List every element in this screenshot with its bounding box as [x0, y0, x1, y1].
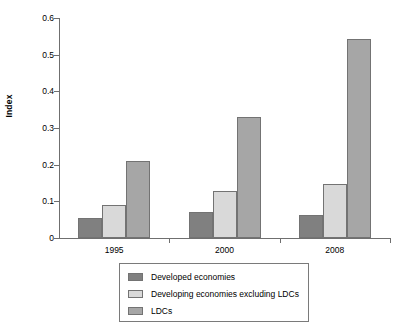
- legend-swatch-icon: [128, 307, 143, 315]
- y-axis-tick: [54, 201, 59, 202]
- bar: [237, 117, 261, 238]
- y-axis-title: Index: [4, 74, 24, 138]
- bar-chart: Index 00.10.20.30.40.50.6 199520002008 D…: [0, 0, 402, 331]
- y-axis-line: [59, 18, 60, 239]
- y-axis-tick-label: 0.1: [26, 197, 54, 205]
- y-axis-tick-label: 0.4: [26, 87, 54, 95]
- y-axis-tick-label: 0.6: [26, 14, 54, 22]
- chart-legend: Developed economiesDeveloping economies …: [119, 263, 309, 322]
- legend-swatch-icon: [128, 290, 143, 298]
- y-axis-tick: [54, 238, 59, 239]
- x-axis-category-label: 2000: [195, 245, 255, 255]
- y-axis-tick: [54, 55, 59, 56]
- bar: [78, 218, 102, 238]
- plot-area: [59, 18, 390, 238]
- y-axis-tick: [54, 91, 59, 92]
- legend-item: LDCs: [128, 302, 308, 319]
- legend-item-label: Developing economies excluding LDCs: [151, 289, 299, 299]
- legend-item: Developed economies: [128, 268, 308, 285]
- bar: [347, 39, 371, 238]
- y-axis-tick-label: 0: [26, 234, 54, 242]
- y-axis-tick-label: 0.2: [26, 161, 54, 169]
- x-axis-tick: [169, 238, 170, 243]
- legend-swatch-icon: [128, 273, 143, 281]
- bar: [213, 191, 237, 238]
- y-axis-tick-labels: 00.10.20.30.40.50.6: [24, 18, 54, 240]
- legend-item-label: Developed economies: [151, 272, 235, 282]
- x-axis-line: [59, 238, 390, 239]
- legend-item-label: LDCs: [151, 306, 172, 316]
- y-axis-tick-label: 0.5: [26, 51, 54, 59]
- legend-item: Developing economies excluding LDCs: [128, 285, 308, 302]
- x-axis-category-label: 2008: [305, 245, 365, 255]
- y-axis-tick: [54, 128, 59, 129]
- bar: [126, 161, 150, 238]
- y-axis-tick: [54, 18, 59, 19]
- x-axis-category-label: 1995: [84, 245, 144, 255]
- bar: [102, 205, 126, 238]
- bar: [323, 184, 347, 238]
- bar: [299, 215, 323, 238]
- bar: [189, 212, 213, 238]
- x-axis-tick: [390, 238, 391, 243]
- y-axis-tick-label: 0.3: [26, 124, 54, 132]
- y-axis-tick: [54, 165, 59, 166]
- x-axis-tick: [280, 238, 281, 243]
